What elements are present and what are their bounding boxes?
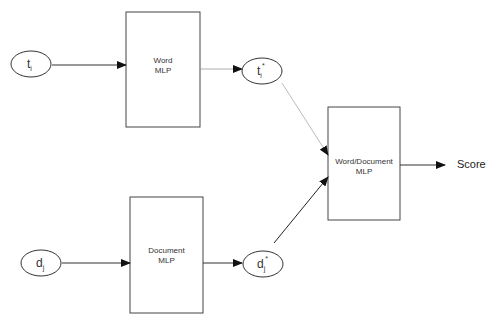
word-document-mlp-label: Word/Document MLP — [328, 157, 400, 177]
word-document-mlp-label-line1: Word/Document — [328, 157, 400, 167]
document-mlp-label-line1: Document — [130, 246, 203, 256]
document-mlp-label: Document MLP — [130, 246, 203, 266]
word-mlp-label-line2: MLP — [126, 66, 200, 76]
node-t-i — [11, 51, 51, 77]
edge-d-j-star-to-wd-mlp — [274, 177, 328, 243]
score-label: Score — [457, 158, 486, 170]
word-mlp-label: Word MLP — [126, 56, 200, 76]
document-mlp-label-line2: MLP — [130, 256, 203, 266]
word-mlp-label-line1: Word — [126, 56, 200, 66]
word-document-mlp-label-line2: MLP — [328, 167, 400, 177]
edge-t-i-star-to-wd-mlp — [282, 83, 328, 155]
diagram-canvas: ti ti* dj dj* — [0, 0, 496, 325]
